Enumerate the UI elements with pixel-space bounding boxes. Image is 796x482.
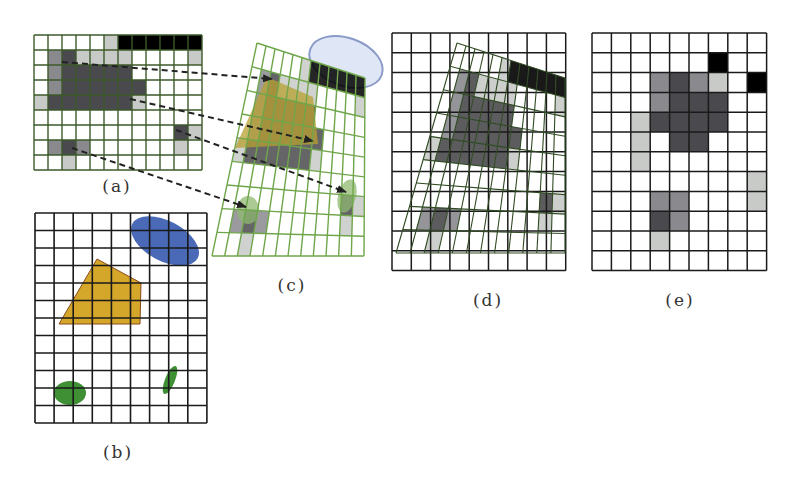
grid-cell-black [708, 53, 727, 73]
grid-cell-black [160, 35, 174, 50]
grid-cell-mid [650, 73, 669, 93]
warped-cell-black [546, 72, 556, 95]
grid-cell-dark [62, 80, 76, 95]
grid-cell-dark [689, 132, 708, 152]
warped-cell-black [555, 75, 565, 97]
panel-c-warped-grid [212, 26, 390, 256]
label-e: (e) [665, 290, 694, 310]
grid-cell-black [118, 35, 132, 50]
grid-cell-dark [670, 92, 689, 112]
warped-cell-light [555, 95, 565, 117]
grid-cell-mid [48, 140, 62, 155]
warped-cell-black [346, 72, 356, 95]
grid-cell-dark [689, 112, 708, 132]
warped-grid-line [551, 75, 556, 253]
grid-cell-dark [104, 80, 118, 95]
panel-e-resampled-grid [592, 33, 767, 271]
grid-cell-dark [48, 95, 62, 110]
grid-cell-dark [650, 112, 669, 132]
grid-cell-dark [689, 92, 708, 112]
grid-cell-dark [90, 65, 104, 80]
grid-cell-dark [62, 95, 76, 110]
grid-cell-black [146, 35, 160, 50]
grid-cell-light [174, 140, 188, 155]
grid-cell-light [631, 132, 650, 152]
grid-cell-dark [708, 92, 727, 112]
grid-cell-light [747, 172, 766, 192]
grid-cell-light [90, 50, 104, 65]
grid-cell-dark [62, 65, 76, 80]
grid-cell-dark [76, 95, 90, 110]
warped-cell-black [355, 75, 365, 98]
registration-diagram [0, 0, 796, 482]
grid-cell-dark [650, 211, 669, 231]
grid-cell-dark [76, 65, 90, 80]
grid-cell-dark [104, 95, 118, 110]
grid-cell-mid [48, 50, 62, 65]
grid-cell-dark [118, 95, 132, 110]
grid-cell-light [708, 73, 727, 93]
label-b: (b) [103, 442, 133, 462]
figure-canvas: (a) (b) (c) (d) (e) [0, 0, 796, 482]
grid-cell-dark [90, 80, 104, 95]
grid-cell-dark [118, 80, 132, 95]
grid-cell-mid [48, 65, 62, 80]
grid-cell-light [104, 50, 118, 65]
grid-cell-mid [670, 191, 689, 211]
label-d: (d) [473, 290, 503, 310]
label-c: (c) [278, 275, 307, 295]
grid-cell-dark [62, 140, 76, 155]
grid-cell-dark [708, 112, 727, 132]
grid-cell-mid [650, 191, 669, 211]
grid-cell-light [631, 152, 650, 172]
grid-cell-mid [689, 73, 708, 93]
green-ellipse-shape [160, 364, 181, 396]
grid-cell-light [650, 231, 669, 251]
grid-cell-black [174, 35, 188, 50]
grid-cell-dark [670, 73, 689, 93]
grid-cell-dark [90, 95, 104, 110]
panel-a-source-grid [34, 35, 202, 170]
grid-cell-light [34, 95, 48, 110]
grid-cell-light [104, 35, 118, 50]
grid-cell-black [188, 35, 202, 50]
warped-cell-light [340, 215, 353, 236]
grid-cell-mid [670, 211, 689, 231]
grid-cell-mid [48, 80, 62, 95]
dashed-arrow [72, 148, 246, 207]
warped-grid-line [326, 69, 338, 256]
warped-grid-line [351, 75, 356, 256]
panel-d-overlay-grid [392, 33, 566, 271]
grid-cell-dark [670, 132, 689, 152]
grid-cell-light [118, 50, 132, 65]
label-a: (a) [102, 176, 131, 196]
grid-cell-light [188, 50, 202, 65]
warped-cell-light [355, 95, 365, 117]
grid-cell-dark [76, 80, 90, 95]
warped-cell-light [538, 213, 552, 233]
panel-b-reference-grid [35, 206, 207, 423]
grid-cell-black [747, 73, 766, 93]
grid-cell-light [631, 112, 650, 132]
grid-cell-mid [650, 92, 669, 112]
grid-cell-light [747, 191, 766, 211]
yellow-polygon-shape [59, 259, 141, 324]
grid-cell-light [62, 155, 76, 170]
grid-cell-dark [132, 80, 146, 95]
grid-cell-black [132, 35, 146, 50]
grid-cell-dark [670, 112, 689, 132]
warped-grid-line [523, 69, 538, 253]
green-ellipse-shape [54, 381, 86, 405]
